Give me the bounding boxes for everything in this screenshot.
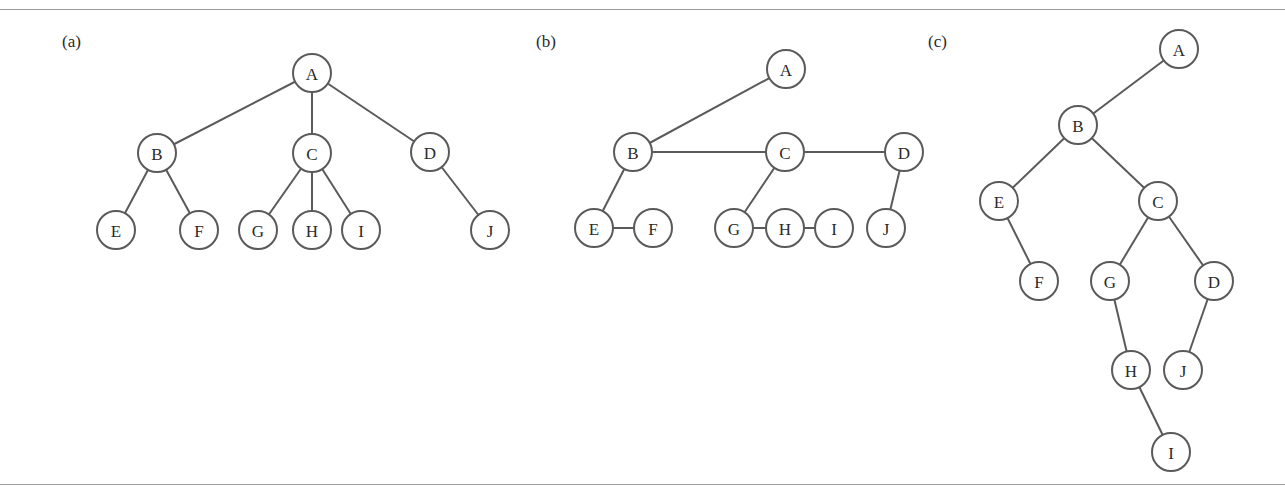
node-c: C <box>293 134 331 172</box>
panel-c-tree: ABECFGDHJI <box>980 30 1233 471</box>
node-f: F <box>634 209 672 247</box>
node-c: C <box>1139 182 1177 220</box>
node-label: F <box>1034 273 1043 292</box>
node-e: E <box>980 182 1018 220</box>
node-d: D <box>885 133 923 171</box>
node-f: F <box>180 211 218 249</box>
node-a: A <box>767 50 805 88</box>
node-g: G <box>715 209 753 247</box>
node-g: G <box>1091 262 1129 300</box>
node-label: G <box>252 222 264 241</box>
node-label: A <box>306 65 319 84</box>
node-a: A <box>293 54 331 92</box>
edge-a-b <box>157 73 312 153</box>
node-label: G <box>728 220 740 239</box>
node-label: J <box>883 220 890 239</box>
node-label: I <box>831 220 837 239</box>
node-c: C <box>766 133 804 171</box>
node-j: J <box>867 209 905 247</box>
node-g: G <box>239 211 277 249</box>
node-b: B <box>1059 106 1097 144</box>
node-d: D <box>1195 262 1233 300</box>
node-j: J <box>471 211 509 249</box>
node-label: I <box>1168 444 1174 463</box>
node-e: E <box>97 211 135 249</box>
node-d: D <box>411 133 449 171</box>
node-h: H <box>766 209 804 247</box>
node-b: B <box>138 134 176 172</box>
node-label: D <box>1208 273 1220 292</box>
node-label: A <box>780 61 793 80</box>
node-label: F <box>648 220 657 239</box>
node-label: H <box>779 220 791 239</box>
node-label: J <box>487 222 494 241</box>
node-label: B <box>1072 117 1083 136</box>
node-i: I <box>1152 433 1190 471</box>
node-h: H <box>1112 351 1150 389</box>
node-label: C <box>306 145 317 164</box>
node-label: D <box>424 144 436 163</box>
panel-a-tree: ABCDEFGHIJ <box>97 54 509 249</box>
node-i: I <box>815 209 853 247</box>
edge-a-b <box>633 69 786 152</box>
node-label: A <box>1173 41 1186 60</box>
node-j: J <box>1164 351 1202 389</box>
node-label: H <box>306 222 318 241</box>
node-label: J <box>1180 362 1187 381</box>
panel-b-tree: ABCDEFGHIJ <box>575 50 923 247</box>
node-label: I <box>358 222 364 241</box>
node-label: B <box>627 144 638 163</box>
node-label: F <box>194 222 203 241</box>
node-label: G <box>1104 273 1116 292</box>
node-label: C <box>1152 193 1163 212</box>
node-a: A <box>1160 30 1198 68</box>
node-label: H <box>1125 362 1137 381</box>
tree-diagrams: ABCDEFGHIJ ABCDEFGHIJ ABECFGDHJI <box>0 0 1285 504</box>
node-label: B <box>151 145 162 164</box>
edge-a-d <box>312 73 430 152</box>
node-i: I <box>342 211 380 249</box>
node-label: D <box>898 144 910 163</box>
node-label: E <box>111 222 121 241</box>
panel-c-edges <box>999 49 1214 452</box>
node-label: C <box>779 144 790 163</box>
node-f: F <box>1020 262 1058 300</box>
node-e: E <box>575 209 613 247</box>
node-h: H <box>293 211 331 249</box>
node-b: B <box>614 133 652 171</box>
node-label: E <box>589 220 599 239</box>
node-label: E <box>994 193 1004 212</box>
